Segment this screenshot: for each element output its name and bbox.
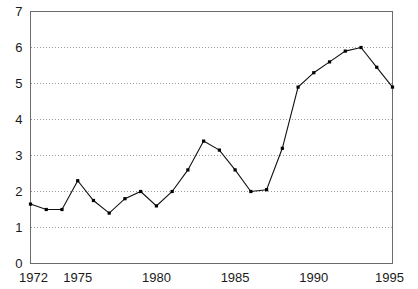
y-tick-label: 3 (15, 148, 22, 163)
plot-frame (31, 12, 393, 264)
data-point-marker: 1982: 2.6 (186, 168, 189, 171)
y-tick-label: 2 (15, 184, 22, 199)
data-point-marker: 1984: 3.15 (218, 149, 221, 152)
data-point-marker: 1989: 4.9 (296, 86, 299, 89)
y-tick-label: 7 (15, 4, 22, 19)
data-point-marker: 1986: 2 (249, 190, 252, 193)
data-point-marker: 1992: 5.9 (344, 50, 347, 53)
y-tick-label: 1 (15, 220, 22, 235)
x-tick-label: 1985 (221, 270, 250, 285)
data-point-marker: 1985: 2.6 (234, 168, 237, 171)
series-markers: 1972: 1.651973: 1.51974: 1.51975: 2.3197… (29, 46, 394, 215)
data-point-marker: 1988: 3.2 (281, 147, 284, 150)
data-point-marker: 1976: 1.75 (92, 199, 95, 202)
data-point-marker: 1972: 1.65 (29, 203, 32, 206)
data-point-marker: 1993: 6 (359, 46, 362, 49)
x-tick-label: 1990 (299, 270, 328, 285)
x-tick-label: 1980 (142, 270, 171, 285)
x-tick-label: 1972 (19, 270, 48, 285)
data-point-marker: 1975: 2.3 (76, 179, 79, 182)
x-tick-label: 1975 (63, 270, 92, 285)
data-point-marker: 1978: 1.8 (123, 197, 126, 200)
series-polyline (31, 48, 393, 214)
line-chart: 01234567 197219751980198519901995 1972: … (0, 0, 418, 289)
data-point-marker: 1983: 3.4 (202, 140, 205, 143)
data-point-marker: 1990: 5.3 (312, 71, 315, 74)
y-axis-tick-labels: 01234567 (15, 4, 22, 271)
data-point-marker: 1991: 5.6 (328, 60, 331, 63)
data-point-marker: 1979: 2 (139, 190, 142, 193)
data-point-marker: 1981: 2 (171, 190, 174, 193)
y-tick-label: 5 (15, 76, 22, 91)
data-point-marker: 1977: 1.4 (108, 212, 111, 215)
data-point-marker: 1980: 1.6 (155, 204, 158, 207)
data-point-marker: 1974: 1.5 (60, 208, 63, 211)
y-tick-label: 4 (15, 112, 22, 127)
data-point-marker: 1994: 5.45 (375, 66, 378, 69)
plot-border (31, 12, 393, 264)
gridlines (31, 48, 393, 228)
x-tick-label: 1995 (375, 270, 404, 285)
y-tick-label: 6 (15, 40, 22, 55)
data-point-marker: 1995: 4.9 (391, 86, 394, 89)
chart-container: 01234567 197219751980198519901995 1972: … (0, 0, 418, 289)
data-point-marker: 1973: 1.5 (45, 208, 48, 211)
x-axis-tick-labels: 197219751980198519901995 (19, 270, 404, 285)
data-point-marker: 1987: 2.05 (265, 188, 268, 191)
data-series-line (31, 48, 393, 214)
